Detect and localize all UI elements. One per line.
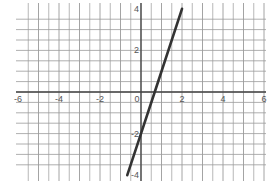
- x-tick-label: -4: [55, 94, 63, 104]
- x-tick-label: 4: [220, 94, 225, 104]
- y-tick-label: -2: [131, 129, 139, 139]
- x-tick-label: 2: [179, 94, 184, 104]
- x-tick-label: -6: [14, 94, 22, 104]
- y-tick-label: -4: [131, 170, 139, 180]
- x-tick-label: 6: [261, 94, 266, 104]
- y-tick-label: 2: [134, 45, 139, 55]
- x-tick-label: 0: [134, 94, 139, 104]
- line-graph: -6-4-2024642-2-4: [0, 0, 273, 188]
- y-tick-label: 4: [134, 4, 139, 14]
- x-tick-label: -2: [96, 94, 104, 104]
